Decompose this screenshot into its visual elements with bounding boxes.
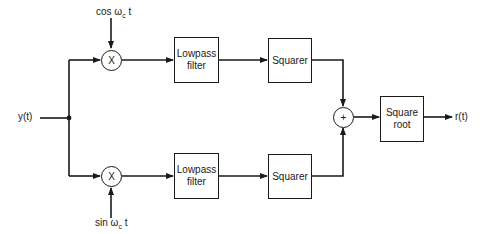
square-root-block: Squareroot: [380, 96, 424, 142]
summer: +: [333, 107, 354, 128]
sin-carrier-label: sin ωc t: [95, 217, 127, 230]
lower-squarer: Squarer: [268, 154, 312, 199]
cos-carrier-label: cos ωc t: [96, 6, 131, 19]
lower-lowpass-filter: Lowpassfilter: [174, 153, 219, 199]
upper-multiplier: X: [101, 50, 122, 71]
upper-squarer: Squarer: [268, 38, 312, 83]
junction-dot: [67, 116, 72, 121]
upper-lowpass-filter: Lowpassfilter: [174, 37, 219, 83]
input-label: y(t): [18, 111, 32, 122]
lower-multiplier: X: [101, 166, 122, 187]
output-label: r(t): [455, 111, 468, 122]
